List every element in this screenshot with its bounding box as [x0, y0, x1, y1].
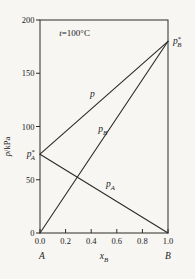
x-tick-label: 1.0: [163, 236, 174, 246]
label-segment: =100°C: [62, 28, 90, 38]
y-tick-label: 50: [26, 175, 35, 185]
chart-svg: 0501001502000.00.20.40.60.81.0ppBpAp*Ap*…: [0, 0, 195, 279]
x-tick-label: 0.2: [60, 236, 71, 246]
line-partial-pressure-A: [40, 154, 168, 233]
scanned-figure-page: 0501001502000.00.20.40.60.81.0ppBpAp*Ap*…: [0, 0, 195, 279]
temperature-annotation: t=100°C: [59, 28, 90, 38]
label-segment: A: [110, 184, 116, 191]
endpoint-label-B: B: [165, 251, 171, 261]
label-segment: B: [103, 129, 107, 136]
x-axis-title: xB: [99, 251, 108, 263]
label-segment: p: [89, 89, 95, 99]
x-tick-label: 0.8: [137, 236, 148, 246]
x-tick-label: 0.4: [86, 236, 97, 246]
label-segment: A: [30, 154, 36, 161]
label-pure-A-vapor-pressure: p*A: [26, 148, 36, 161]
y-tick-label: 150: [22, 68, 35, 78]
y-axis-title: p/kPa: [2, 137, 12, 158]
label-segment: /kPa: [2, 137, 12, 152]
plot-frame: [40, 20, 168, 233]
label-segment: B: [177, 41, 181, 48]
label-partial-pressure-B: pB: [97, 124, 107, 136]
label-segment: B: [104, 256, 108, 263]
endpoint-label-A: A: [38, 251, 45, 261]
x-tick-label: 0.6: [111, 236, 122, 246]
label-partial-pressure-A: pA: [105, 179, 116, 191]
label-pure-B-vapor-pressure: p*B: [172, 35, 182, 48]
y-tick-label: 100: [22, 122, 35, 132]
label-total-pressure: p: [89, 89, 95, 99]
x-tick-label: 0.0: [35, 236, 46, 246]
y-tick-label: 200: [22, 15, 35, 25]
